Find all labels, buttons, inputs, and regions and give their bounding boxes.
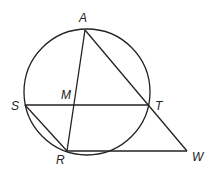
circle <box>24 29 150 155</box>
segment-SR <box>25 105 67 151</box>
label-R: R <box>56 153 65 167</box>
segment-AW <box>85 30 187 151</box>
geometry-diagram: A S M T R W <box>0 0 219 173</box>
label-W: W <box>192 150 205 164</box>
label-M: M <box>61 88 71 102</box>
label-T: T <box>155 99 164 113</box>
label-A: A <box>78 11 87 25</box>
label-S: S <box>11 99 19 113</box>
